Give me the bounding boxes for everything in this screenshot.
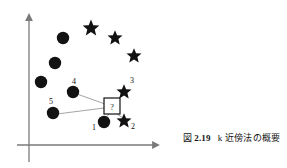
circle-marker [57, 32, 69, 44]
caption-text: k 近傍法の概要 [218, 133, 280, 143]
circle-marker-4 [67, 86, 79, 98]
star-marker [127, 48, 142, 62]
star-marker [83, 20, 100, 36]
star-marker-3 [117, 84, 132, 98]
neighbor-link-4 [77, 94, 105, 104]
star-marker [108, 30, 123, 44]
query-point-label: ? [110, 103, 114, 112]
point-label-5: 5 [49, 97, 53, 106]
point-label-4: 4 [72, 77, 76, 86]
circle-marker [35, 76, 47, 88]
circle-marker-1 [98, 116, 110, 128]
point-label-1: 1 [92, 123, 96, 132]
axes-group [17, 17, 156, 162]
knn-figure: ? 4 5 1 2 3 図2.19k 近傍法の概要 [0, 0, 287, 168]
circle-marker-5 [47, 107, 59, 119]
query-point-group: ? [104, 98, 120, 114]
neighbor-link-5 [57, 108, 104, 114]
point-label-2: 2 [131, 122, 135, 131]
circle-marker [49, 57, 61, 69]
figure-caption: 図2.19k 近傍法の概要 [183, 132, 280, 145]
caption-label: 図 [183, 133, 192, 143]
caption-number: 2.19 [194, 133, 211, 143]
point-label-3: 3 [130, 76, 134, 85]
